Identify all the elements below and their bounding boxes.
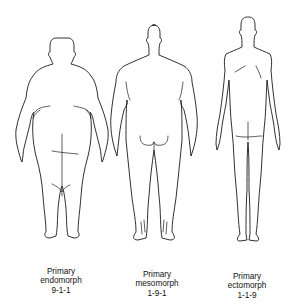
mesomorph-label-type: mesomorph — [117, 279, 197, 288]
ectomorph-label-title: Primary — [207, 272, 287, 281]
ectomorph-label-rating: 1-1-9 — [207, 291, 287, 300]
ectomorph-figure — [216, 17, 280, 241]
mesomorph-achilles-right — [163, 220, 167, 234]
mesomorph-lat-right — [179, 82, 183, 100]
endomorph-fold-left — [35, 106, 50, 112]
mesomorph-achilles-left — [141, 220, 145, 234]
endomorph-figure — [16, 38, 108, 238]
mesomorph-figure — [111, 25, 198, 240]
ectomorph-gluteal-line — [236, 136, 262, 137]
ectomorph-scapula-right — [256, 66, 261, 78]
endomorph-label-type: endomorph — [21, 276, 101, 285]
ectomorph-label-type: ectomorph — [207, 281, 287, 290]
ectomorph-scapula-left — [235, 66, 245, 72]
endomorph-label-title: Primary — [21, 267, 101, 276]
somatotype-figures — [0, 0, 292, 306]
mesomorph-label: Primary mesomorph 1-9-1 — [117, 270, 197, 298]
endomorph-label: Primary endomorph 9-1-1 — [21, 267, 101, 295]
mesomorph-lat-left — [126, 82, 130, 100]
endomorph-label-rating: 9-1-1 — [21, 286, 101, 295]
mesomorph-outline — [111, 25, 198, 240]
mesomorph-label-title: Primary — [117, 270, 197, 279]
ectomorph-label: Primary ectomorph 1-1-9 — [207, 272, 287, 300]
endomorph-waist-line — [52, 151, 78, 154]
mesomorph-label-rating: 1-9-1 — [117, 289, 197, 298]
